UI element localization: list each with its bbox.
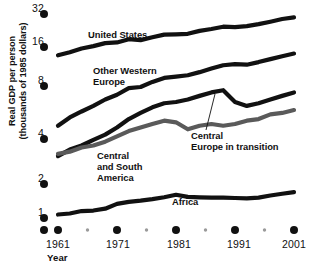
series-line-other-western-europe	[58, 54, 294, 126]
gdp-per-person-chart: Real GDP per person (thousands of 1985 d…	[0, 0, 314, 265]
x-axis-minor-dot-1986	[204, 228, 207, 231]
x-axis-minor-dot-1996	[263, 228, 266, 231]
x-axis-major-dot-1961	[54, 226, 62, 234]
series-line-africa	[58, 192, 294, 214]
x-axis-minor-dot-1976	[145, 228, 148, 231]
y-axis-dot-32	[40, 10, 48, 18]
x-axis-major-dot-1971	[113, 226, 121, 234]
series-line-united-states	[58, 17, 294, 55]
y-axis-dot-8	[40, 82, 48, 90]
y-axis-dot-1	[40, 214, 48, 222]
y-axis-dot-4	[40, 135, 48, 143]
plot-area	[0, 0, 314, 265]
series-line-central-and-south-america	[58, 110, 294, 154]
y-axis-dot-16	[40, 43, 48, 51]
x-axis-origin-dot	[40, 226, 48, 234]
y-axis-dots	[40, 10, 48, 222]
x-axis-major-dot-1981	[172, 226, 180, 234]
x-axis-major-dot-1991	[231, 226, 239, 234]
x-axis-major-dot-2001	[290, 226, 298, 234]
y-axis-dot-2	[40, 180, 48, 188]
x-axis-minor-dot-1966	[86, 228, 89, 231]
axis-dots	[40, 226, 298, 234]
